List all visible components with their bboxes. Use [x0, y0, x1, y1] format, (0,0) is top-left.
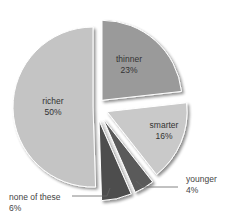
slice-pct-richer: 50% — [44, 107, 61, 117]
pie-slices — [13, 20, 187, 200]
slice-pct-younger: 4% — [186, 185, 199, 195]
slice-label-smarter: smarter — [150, 120, 179, 130]
slice-label-younger: younger — [186, 174, 217, 184]
pie-chart: thinner 23% smarter 16% richer 50% young… — [0, 0, 230, 220]
slice-pct-none-of-these: 6% — [9, 203, 22, 213]
slice-pct-smarter: 16% — [155, 131, 172, 141]
slice-pct-thinner: 23% — [120, 65, 137, 75]
slice-label-thinner: thinner — [116, 54, 142, 64]
slice-label-richer: richer — [42, 96, 63, 106]
slice-label-none-of-these: none of these — [9, 192, 61, 202]
